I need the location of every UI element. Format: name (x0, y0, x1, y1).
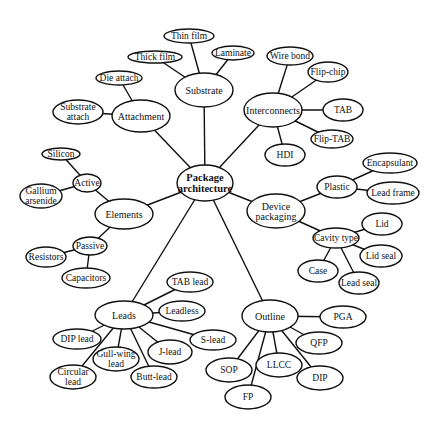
node-label: TAB lead (172, 277, 209, 287)
node-tab: TAB (323, 99, 363, 121)
node-label: Passive (76, 241, 105, 251)
node-label: Lead frame (371, 188, 415, 198)
node-label: DIP lead (60, 334, 93, 344)
node-label: Plastic (324, 182, 349, 192)
package-architecture-mind-map: PackagearchitectureSubstrateThin filmThi… (0, 0, 441, 434)
node-label: packaging (255, 211, 296, 222)
node-plastic: Plastic (317, 176, 357, 198)
node-label: Cavity type (314, 233, 358, 243)
node-thin-film: Thin film (164, 29, 214, 43)
node-label: Circular (57, 367, 89, 377)
node-elements: Elements (95, 199, 153, 229)
node-label: Elements (105, 209, 142, 220)
node-llcc: LLCC (256, 353, 302, 377)
node-label: Encapsulant (367, 158, 414, 168)
node-label: Package (186, 172, 224, 183)
node-fp: FP (225, 385, 271, 409)
node-label: J-lead (159, 347, 182, 357)
node-pga: PGA (320, 306, 366, 328)
node-label: HDI (277, 150, 294, 160)
node-label: SOP (220, 365, 237, 375)
node-leadless: Leadless (159, 301, 205, 321)
node-label: TAB (334, 105, 352, 115)
node-label: Resistors (29, 252, 64, 262)
node-label: PGA (333, 312, 352, 322)
node-silicon: Silicon (42, 148, 80, 160)
node-tab-lead: TAB lead (167, 272, 213, 292)
node-j-lead: J-lead (148, 340, 192, 364)
node-label: Lid seal (366, 251, 397, 261)
node-wire-bond: Wire bond (267, 47, 313, 65)
node-flip-chip: Flip-chip (308, 62, 348, 82)
node-circular-lead: Circularlead (50, 365, 96, 389)
node-label: Butt-lead (136, 372, 172, 382)
node-label: Interconnects (246, 105, 300, 116)
node-label: lead (65, 377, 81, 387)
node-lid: Lid (362, 213, 402, 235)
node-dip-lead: DIP lead (53, 329, 101, 349)
node-label: Case (309, 266, 327, 276)
node-label: S-lead (201, 335, 226, 345)
node-device-packaging: Devicepackaging (247, 194, 305, 228)
node-interconnects: Interconnects (244, 93, 302, 127)
node-label: Substrate (60, 102, 95, 112)
node-passive: Passive (73, 237, 107, 255)
node-cavity-type: Cavity type (313, 228, 359, 248)
node-label: Thick film (135, 52, 176, 62)
node-label: FP (243, 392, 254, 402)
node-label: Outline (255, 311, 286, 322)
node-capacitors: Capacitors (62, 268, 110, 288)
node-sop: SOP (206, 358, 252, 382)
node-substrate: Substrate (175, 73, 233, 107)
node-gull-wing-lead: Gull-winglead (93, 347, 139, 371)
node-label: Substrate (185, 85, 223, 96)
node-label: QFP (310, 338, 327, 348)
node-s-lead: S-lead (190, 330, 236, 350)
node-label: Gull-wing (96, 349, 135, 359)
node-substrate-attach: Substrateattach (53, 100, 103, 124)
node-label: Active (74, 178, 99, 188)
node-label: Capacitors (66, 273, 107, 283)
node-label: Silicon (48, 149, 75, 159)
node-lead-seal: Lead seal (339, 272, 379, 294)
node-label: Attachment (118, 111, 165, 122)
node-dip: DIP (297, 366, 343, 390)
node-flip-tab: Flip-TAB (311, 130, 353, 148)
node-laminate: Laminate (212, 46, 254, 60)
node-label: LLCC (267, 360, 291, 370)
node-label: Wire bond (270, 51, 310, 61)
node-label: lead (108, 359, 124, 369)
node-label: Lead seal (341, 278, 377, 288)
node-attachment: Attachment (112, 100, 170, 132)
node-lead-frame: Lead frame (367, 182, 419, 204)
node-label: attach (67, 112, 90, 122)
node-hdi: HDI (265, 144, 305, 166)
node-label: Thin film (171, 31, 208, 41)
node-label: Leadless (165, 306, 199, 316)
node-resistors: Resistors (26, 247, 66, 267)
node-butt-lead: Butt-lead (131, 366, 177, 388)
node-label: Flip-chip (311, 67, 346, 77)
nodes-layer: PackagearchitectureSubstrateThin filmThi… (20, 29, 419, 409)
node-root: Packagearchitecture (177, 165, 233, 201)
node-label: Leads (112, 310, 136, 321)
node-die-attach: Die attach (96, 71, 142, 85)
node-label: Gallium (25, 186, 57, 196)
node-thick-film: Thick film (128, 51, 182, 63)
node-encapsulant: Encapsulant (363, 153, 417, 173)
node-label: Flip-TAB (314, 134, 351, 144)
node-label: Laminate (215, 48, 251, 58)
node-label: arsenide (25, 196, 57, 206)
node-leads: Leads (95, 301, 153, 329)
node-label: Lid (375, 219, 388, 229)
node-label: Die attach (100, 73, 139, 83)
node-label: architecture (178, 183, 233, 194)
node-outline: Outline (242, 300, 298, 332)
node-case: Case (298, 260, 338, 282)
node-label: DIP (312, 373, 327, 383)
node-qfp: QFP (296, 332, 342, 354)
node-lid-seal: Lid seal (360, 245, 402, 267)
node-active: Active (73, 174, 101, 192)
node-gallium-arsenide: Galliumarsenide (20, 184, 62, 208)
